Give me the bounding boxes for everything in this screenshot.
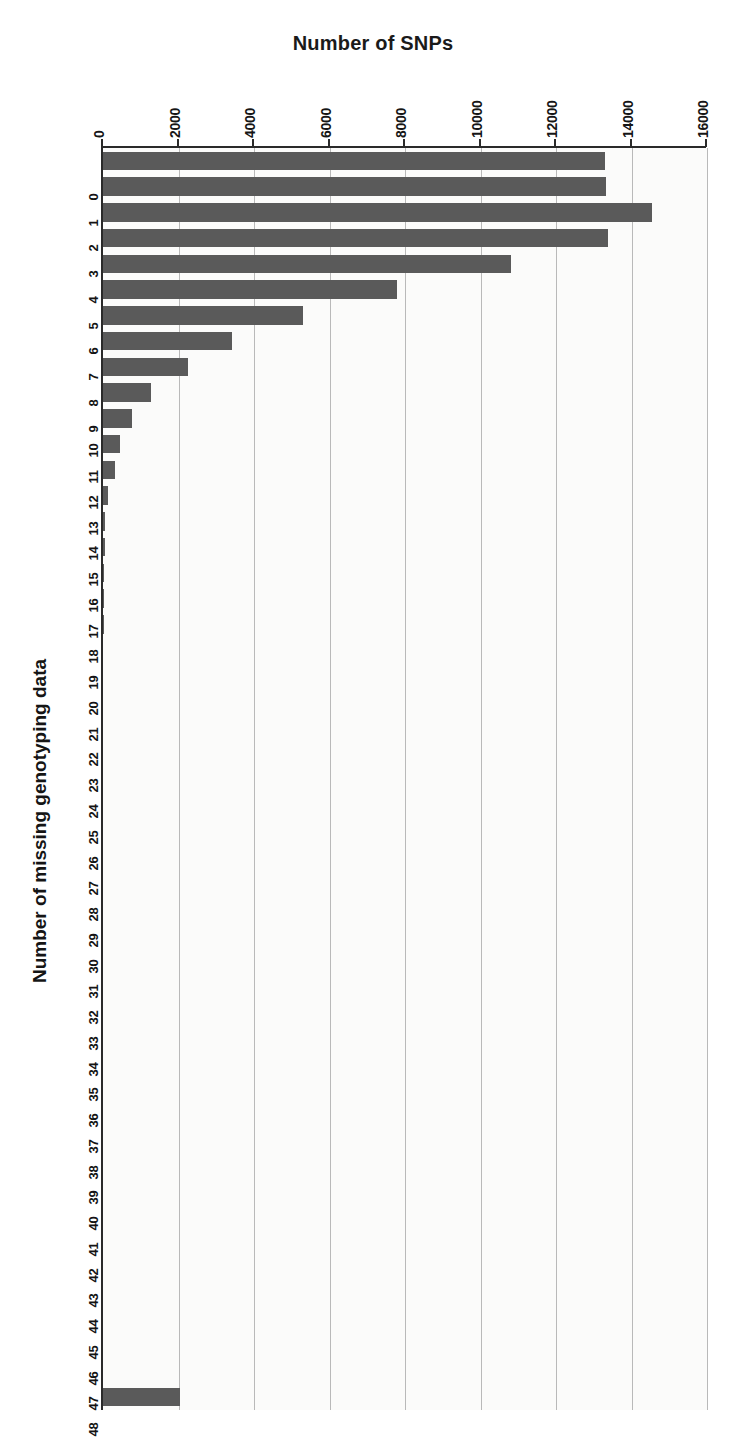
gridline xyxy=(330,148,331,1410)
bar[interactable] xyxy=(103,512,105,531)
bar[interactable] xyxy=(103,564,104,583)
value-axis-tick xyxy=(554,139,556,147)
bar[interactable] xyxy=(103,461,115,480)
gridline xyxy=(707,148,708,1410)
value-axis-tick xyxy=(328,139,330,147)
gridline xyxy=(556,148,557,1410)
gridline xyxy=(405,148,406,1410)
category-axis: 0123456789101112131415161718192021222324… xyxy=(0,148,101,1410)
bar[interactable] xyxy=(103,409,132,428)
bar[interactable] xyxy=(103,332,232,351)
bar[interactable] xyxy=(103,538,105,557)
bar[interactable] xyxy=(103,383,151,402)
value-axis: 0200040006000800010000120001400016000 xyxy=(101,146,706,148)
bar[interactable] xyxy=(103,152,605,171)
bar[interactable] xyxy=(103,177,606,196)
gridline xyxy=(632,148,633,1410)
bar[interactable] xyxy=(103,203,652,222)
bar[interactable] xyxy=(103,280,397,299)
value-axis-tick-label: 14000 xyxy=(620,101,636,138)
value-axis-tick-label: 16000 xyxy=(695,101,711,138)
bar[interactable] xyxy=(103,1388,180,1407)
value-axis-tick xyxy=(403,139,405,147)
value-axis-tick xyxy=(705,139,707,147)
gridline xyxy=(254,148,255,1410)
value-axis-tick xyxy=(101,139,103,147)
value-axis-tick xyxy=(630,139,632,147)
bar[interactable] xyxy=(103,229,608,248)
value-axis-tick-label: 8000 xyxy=(393,108,409,138)
chart-title: Number of SNPs xyxy=(0,32,746,55)
value-axis-tick-label: 6000 xyxy=(318,108,334,138)
value-axis-tick-label: 0 xyxy=(91,131,107,139)
value-axis-tick xyxy=(177,139,179,147)
value-axis-tick-label: 2000 xyxy=(167,108,183,138)
bar[interactable] xyxy=(103,486,108,505)
bar[interactable] xyxy=(103,306,303,325)
value-axis-tick-label: 12000 xyxy=(544,101,560,138)
value-axis-tick-label: 4000 xyxy=(242,108,258,138)
bar[interactable] xyxy=(103,589,104,608)
value-axis-tick-label: 10000 xyxy=(469,101,485,138)
value-axis-tick xyxy=(252,139,254,147)
bar[interactable] xyxy=(103,435,120,454)
plot-area xyxy=(101,148,707,1410)
value-axis-tick xyxy=(479,139,481,147)
bar[interactable] xyxy=(103,358,188,377)
gridline xyxy=(481,148,482,1410)
category-axis-label: 48 xyxy=(86,1397,101,1437)
bar[interactable] xyxy=(103,255,511,274)
